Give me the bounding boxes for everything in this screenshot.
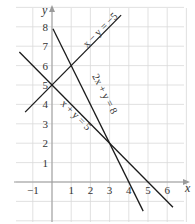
y-tick-label: 4 [43,98,49,110]
y-tick-label: 2 [43,137,49,149]
x-tick-label: −1 [27,184,39,196]
y-axis-arrow-icon [49,5,55,12]
x-tick-label: 5 [145,184,151,196]
line-label-2x-plus-y: 2x + y = 8 [90,72,119,116]
line-label-x-plus-y: x + y = 5 [59,98,94,133]
y-tick-label: 6 [43,60,49,72]
y-tick-label: 1 [43,157,49,169]
graph: −112345612345678 x y x − y = −5 2x + y =… [0,0,195,224]
x-tick-label: 2 [88,184,94,196]
y-tick-label: 7 [43,40,49,52]
y-tick-label: 8 [43,21,49,33]
tick-labels: −112345612345678 [27,21,171,196]
y-axis-label: y [41,3,48,17]
line-label-x-minus-y: x − y = −5 [81,11,120,50]
x-tick-label: 6 [164,184,170,196]
line-series-2 [53,29,143,211]
x-tick-label: 3 [107,184,113,196]
y-tick-label: 3 [43,118,49,130]
x-axis-label: x [184,181,191,195]
x-tick-label: 1 [68,184,74,196]
